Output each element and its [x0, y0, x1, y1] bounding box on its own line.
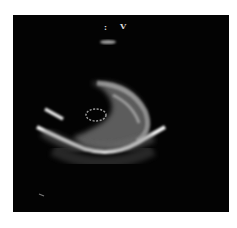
- small-marker: :: [104, 22, 107, 32]
- ultrasound-scan: [13, 15, 229, 212]
- orientation-marker: V: [120, 21, 126, 31]
- ultrasound-frame: : V: [13, 15, 229, 212]
